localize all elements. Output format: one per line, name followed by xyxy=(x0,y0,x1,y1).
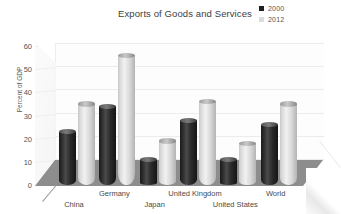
bar-body xyxy=(261,125,278,185)
bar-united-kingdom-2012 xyxy=(199,102,216,185)
y-tick-10: 10 xyxy=(12,158,32,167)
x-label-united-kingdom: United Kingdom xyxy=(155,189,235,198)
y-tick-20: 20 xyxy=(12,135,32,144)
bar-body xyxy=(180,120,197,185)
x-label-germany: Germany xyxy=(74,189,154,198)
gridline xyxy=(56,43,324,44)
legend-item-2000: 2000 xyxy=(259,3,284,14)
bar-cap xyxy=(78,101,95,106)
bar-body xyxy=(140,160,157,185)
x-label-china: China xyxy=(34,200,114,209)
bar-body xyxy=(199,102,216,185)
y-tick-40: 40 xyxy=(12,88,32,97)
bar-body xyxy=(239,143,256,185)
side-gridline xyxy=(35,67,56,70)
gridline xyxy=(56,89,324,90)
legend-label-2012: 2012 xyxy=(268,16,284,23)
bar-germany-2012 xyxy=(118,55,135,185)
bar-united-states-2000 xyxy=(220,160,237,185)
y-tick-60: 60 xyxy=(12,42,32,51)
bar-cap xyxy=(180,118,197,123)
side-gridline xyxy=(35,90,56,93)
bar-cap xyxy=(99,104,116,109)
side-gridline xyxy=(35,44,56,47)
x-label-world: World xyxy=(236,189,316,198)
gridline xyxy=(56,66,324,67)
bar-body xyxy=(78,104,95,185)
bar-body xyxy=(280,104,297,185)
chart-legend: 2000 2012 xyxy=(259,3,284,25)
legend-label-2000: 2000 xyxy=(268,5,284,12)
side-gridline xyxy=(35,137,56,140)
bar-cap xyxy=(140,157,157,162)
bar-germany-2000 xyxy=(99,106,116,185)
bar-united-kingdom-2000 xyxy=(180,120,197,185)
bar-cap xyxy=(280,101,297,106)
y-tick-50: 50 xyxy=(12,65,32,74)
bar-cap xyxy=(118,53,135,58)
bar-body xyxy=(159,141,176,185)
bar-body xyxy=(59,132,76,185)
bar-japan-2012 xyxy=(159,141,176,185)
y-tick-0: 0 xyxy=(12,181,32,190)
bar-world-2000 xyxy=(261,125,278,185)
bar-china-2012 xyxy=(78,104,95,185)
page-corner-fold xyxy=(306,168,340,214)
bar-body xyxy=(99,106,116,185)
chart-title: Exports of Goods and Services xyxy=(110,8,260,19)
x-label-united-states: United States xyxy=(195,200,275,209)
bar-world-2012 xyxy=(280,104,297,185)
bar-united-states-2012 xyxy=(239,143,256,185)
legend-swatch-2012 xyxy=(259,17,264,22)
bar-china-2000 xyxy=(59,132,76,185)
y-tick-30: 30 xyxy=(12,112,32,121)
bar-cap xyxy=(239,141,256,146)
legend-item-2012: 2012 xyxy=(259,14,284,25)
legend-swatch-2000 xyxy=(259,6,264,11)
side-gridline xyxy=(35,114,56,117)
bar-japan-2000 xyxy=(140,160,157,185)
bar-body xyxy=(118,55,135,185)
x-label-japan: Japan xyxy=(115,200,195,209)
bar-body xyxy=(220,160,237,185)
bar-cap xyxy=(159,138,176,143)
side-gridline xyxy=(35,160,56,163)
